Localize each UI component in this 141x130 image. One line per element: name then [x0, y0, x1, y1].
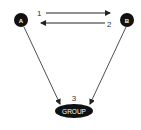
edge-b-to-a: 2 [41, 20, 112, 29]
node-b: B [120, 13, 134, 27]
node-b-label: B [125, 18, 130, 24]
edge-b-to-group [90, 27, 126, 104]
edge-a-to-b: 1 [37, 9, 110, 18]
node-group: GROUP [55, 104, 93, 118]
node-a-label: A [19, 18, 24, 24]
group-number-label: 3 [72, 94, 77, 103]
edge-a-to-group [24, 27, 60, 104]
edge-label-1: 1 [37, 9, 42, 18]
node-group-label: GROUP [62, 108, 86, 115]
node-a: A [14, 13, 28, 27]
diagram-canvas: 1 2 A B 3 GROUP [0, 0, 141, 130]
edge-label-2: 2 [107, 20, 112, 29]
